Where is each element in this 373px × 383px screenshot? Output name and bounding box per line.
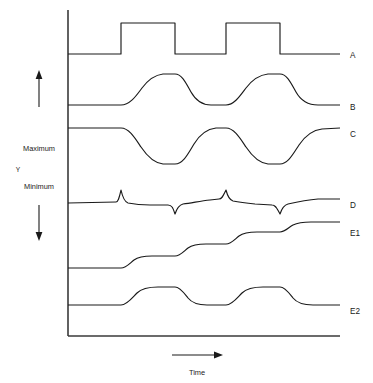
trace-label-c: C xyxy=(350,130,356,139)
trace-label-d: D xyxy=(350,201,356,210)
x-axis-time-arrow xyxy=(172,352,223,359)
trace-label-b: B xyxy=(350,103,356,112)
trace-A xyxy=(68,23,340,54)
y-axis-down-arrow xyxy=(36,205,43,241)
arrow-down-head-icon xyxy=(36,232,43,241)
trace-label-a: A xyxy=(350,51,356,60)
trace-E2 xyxy=(68,287,340,305)
trace-B xyxy=(68,74,340,105)
y-axis-up-arrow xyxy=(36,70,43,107)
trace-D xyxy=(68,190,340,214)
arrow-right-head-icon xyxy=(214,352,223,359)
y-axis-minimum-label: Minimum xyxy=(24,182,54,191)
arrow-up-head-icon xyxy=(36,70,43,79)
x-axis-label: Time xyxy=(189,368,205,377)
y-axis-label: Y xyxy=(16,166,21,173)
trace-label-e1: E1 xyxy=(350,229,360,238)
y-axis-maximum-label: Maximum xyxy=(23,144,55,153)
trace-C xyxy=(68,128,340,164)
trace-E1 xyxy=(68,222,340,268)
trace-label-e2: E2 xyxy=(350,307,360,316)
axis-group xyxy=(68,10,340,336)
waveform-diagram: Maximum Y Minimum Time A B C D E1 E2 xyxy=(0,0,373,383)
